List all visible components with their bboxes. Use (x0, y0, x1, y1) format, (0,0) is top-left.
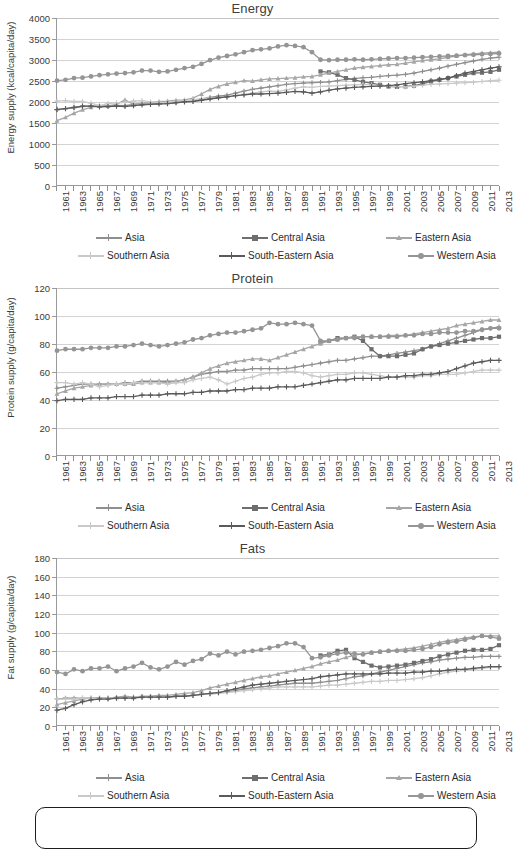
x-axis-labels: 1961196319651967196919711973197519771979… (56, 731, 499, 773)
x-tick-label: 1969 (128, 191, 139, 212)
legend-marker-icon (408, 251, 434, 261)
x-tick-mark (354, 186, 355, 190)
series-western-asia (55, 320, 502, 353)
x-tick-mark (167, 726, 168, 730)
x-tick-label: 1985 (264, 461, 275, 482)
x-tick-label: 1969 (128, 461, 139, 482)
x-tick-mark (133, 726, 134, 730)
legend-marker-icon (219, 251, 245, 261)
legend-item-asia[interactable]: Asia (96, 502, 144, 513)
legend-item-eastern-asia[interactable]: Eastern Asia (386, 502, 471, 513)
legend-label: Central Asia (271, 232, 325, 243)
y-tick-label: 120 (34, 609, 50, 620)
legend-item-south-eastern-asia[interactable]: South-Eastern Asia (219, 520, 334, 531)
x-tick-label: 1975 (179, 731, 190, 752)
x-tick-mark (405, 726, 406, 730)
series-layer (57, 558, 499, 725)
legend-item-south-eastern-asia[interactable]: South-Eastern Asia (219, 250, 334, 261)
y-tick-label: 20 (39, 423, 50, 434)
legend-label: Asia (125, 232, 144, 243)
legend-item-western-asia[interactable]: Western Asia (408, 790, 496, 801)
x-tick-mark (65, 456, 66, 460)
x-tick-label: 1967 (111, 461, 122, 482)
x-tick-label: 1991 (316, 191, 327, 212)
x-axis-labels: 1961196319651967196919711973197519771979… (56, 461, 499, 503)
x-tick-label: 1977 (196, 731, 207, 752)
legend-label: Central Asia (271, 502, 325, 513)
legend-item-western-asia[interactable]: Western Asia (408, 250, 496, 261)
x-tick-mark (99, 726, 100, 730)
x-tick-label: 1995 (350, 461, 361, 482)
plot-frame (56, 288, 499, 456)
x-tick-label: 1963 (77, 731, 88, 752)
x-tick-mark (116, 726, 117, 730)
x-tick-mark (473, 186, 474, 190)
x-tick-mark (473, 456, 474, 460)
legend-label: Southern Asia (107, 520, 169, 531)
legend-item-southern-asia[interactable]: Southern Asia (78, 250, 169, 261)
x-tick-label: 1993 (333, 731, 344, 752)
x-tick-mark (456, 726, 457, 730)
x-tick-label: 1971 (145, 461, 156, 482)
legend-item-asia[interactable]: Asia (96, 772, 144, 783)
x-tick-mark (405, 456, 406, 460)
legend-label: Asia (125, 772, 144, 783)
y-axis-labels: 020406080100120140160180 (0, 558, 54, 726)
legend-item-central-asia[interactable]: Central Asia (242, 502, 325, 513)
x-tick-mark (320, 186, 321, 190)
x-tick-label: 1987 (282, 191, 293, 212)
chart-legend: AsiaCentral AsiaEastern AsiaSouthern Asi… (56, 772, 499, 810)
x-tick-label: 1963 (77, 461, 88, 482)
y-axis-labels: 05001000150020002500300035004000 (0, 18, 54, 186)
plot-area (56, 18, 499, 186)
x-tick-label: 2011 (486, 461, 497, 481)
legend-item-southern-asia[interactable]: Southern Asia (78, 790, 169, 801)
x-tick-mark (286, 456, 287, 460)
x-tick-mark (252, 186, 253, 190)
y-tick-label: 2500 (29, 76, 50, 87)
x-tick-mark (337, 726, 338, 730)
x-tick-label: 2005 (435, 191, 446, 212)
legend-label: South-Eastern Asia (248, 520, 334, 531)
x-tick-mark (499, 186, 500, 191)
x-tick-mark (490, 186, 491, 190)
x-tick-label: 2007 (452, 191, 463, 212)
x-tick-label: 1995 (350, 731, 361, 752)
x-tick-mark (303, 456, 304, 460)
legend-marker-icon (242, 773, 268, 783)
series-asia (55, 55, 502, 112)
x-tick-label: 2011 (486, 731, 497, 751)
legend-item-central-asia[interactable]: Central Asia (242, 772, 325, 783)
x-tick-label: 1999 (384, 731, 395, 752)
x-tick-mark (388, 456, 389, 460)
y-tick-label: 1500 (29, 118, 50, 129)
y-tick-label: 3000 (29, 55, 50, 66)
x-tick-mark (184, 726, 185, 730)
x-tick-label: 2013 (503, 461, 514, 482)
legend-item-eastern-asia[interactable]: Eastern Asia (386, 772, 471, 783)
x-tick-label: 1961 (60, 461, 71, 482)
legend-item-southern-asia[interactable]: Southern Asia (78, 520, 169, 531)
series-layer (57, 288, 499, 455)
legend-label: Asia (125, 502, 144, 513)
legend-marker-icon (242, 503, 268, 513)
legend-row: AsiaCentral AsiaEastern Asia (56, 502, 499, 520)
x-tick-mark (490, 726, 491, 730)
chart-title: Energy (0, 1, 505, 16)
legend-item-central-asia[interactable]: Central Asia (242, 232, 325, 243)
legend-item-eastern-asia[interactable]: Eastern Asia (386, 232, 471, 243)
series-western-asia (55, 634, 502, 677)
legend-item-asia[interactable]: Asia (96, 232, 144, 243)
x-tick-mark (354, 726, 355, 730)
legend-row: AsiaCentral AsiaEastern Asia (56, 772, 499, 790)
x-tick-mark (201, 726, 202, 730)
legend-item-south-eastern-asia[interactable]: South-Eastern Asia (219, 790, 334, 801)
x-tick-mark (184, 186, 185, 190)
x-tick-mark (473, 726, 474, 730)
legend-item-western-asia[interactable]: Western Asia (408, 520, 496, 531)
x-tick-mark (167, 456, 168, 460)
x-tick-label: 2005 (435, 461, 446, 482)
x-tick-label: 1973 (162, 191, 173, 212)
legend-marker-icon (219, 521, 245, 531)
legend-marker-icon (78, 521, 104, 531)
